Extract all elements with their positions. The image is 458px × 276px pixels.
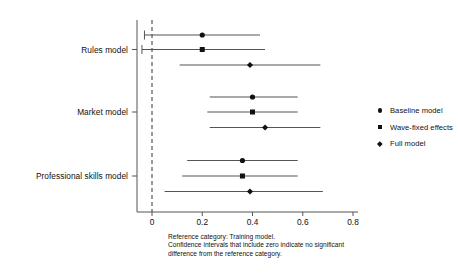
circle-marker-icon — [374, 108, 386, 112]
diamond-marker-icon — [374, 142, 386, 146]
y-axis-category-label: Rules model — [81, 45, 128, 55]
y-axis-ticks — [132, 50, 137, 177]
forest-row — [180, 62, 321, 68]
chart-footnote: Reference category: Training model. Conf… — [168, 233, 344, 258]
x-tick-label: 0 — [150, 217, 155, 227]
diamond-marker-icon — [262, 124, 268, 130]
diamond-marker-icon — [247, 62, 253, 68]
square-marker-icon — [250, 110, 255, 115]
forest-row — [210, 124, 321, 130]
forest-row — [182, 174, 298, 179]
data-series-layer — [142, 31, 323, 195]
forest-row — [165, 188, 323, 194]
forest-row — [207, 110, 297, 115]
legend-label: Wave-fixed effects — [390, 123, 453, 132]
x-tick-label: 0.4 — [247, 217, 259, 227]
square-marker-icon — [374, 125, 386, 129]
legend-item-full-model: Full model — [374, 137, 453, 150]
legend-label: Baseline model — [390, 106, 443, 115]
x-tick-label: 0.8 — [347, 217, 359, 227]
y-axis-category-label: Professional skills model — [36, 171, 128, 181]
forest-row — [144, 31, 260, 40]
forest-row — [187, 158, 298, 163]
square-marker-icon — [200, 47, 205, 52]
x-axis-ticks — [152, 212, 353, 216]
x-tick-label: 0.2 — [196, 217, 208, 227]
y-axis-category-label: Market model — [77, 107, 128, 117]
circle-marker-icon — [200, 32, 205, 37]
chart-legend: Baseline model Wave-fixed effects Full m… — [374, 104, 453, 154]
forest-row — [210, 94, 298, 99]
diamond-marker-icon — [247, 188, 253, 194]
legend-label: Full model — [390, 139, 426, 148]
legend-item-wave-fixed-effects: Wave-fixed effects — [374, 121, 453, 134]
circle-marker-icon — [250, 94, 255, 99]
circle-marker-icon — [240, 158, 245, 163]
square-marker-icon — [240, 174, 245, 179]
x-tick-label: 0.6 — [297, 217, 309, 227]
forest-row — [142, 45, 265, 54]
legend-item-baseline-model: Baseline model — [374, 104, 453, 117]
forest-plot-figure: Rules modelMarket modelProfessional skil… — [0, 0, 458, 276]
